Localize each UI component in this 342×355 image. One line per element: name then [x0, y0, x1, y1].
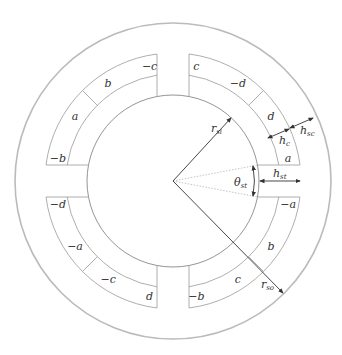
h-c-label: hc [279, 134, 290, 148]
coil-label: −d [50, 198, 66, 211]
coil-label: −a [67, 240, 83, 253]
coil-label: a [285, 152, 292, 165]
coil-label: −b [188, 290, 204, 303]
slot-outer-arc [189, 54, 300, 165]
coil-divider [82, 90, 97, 105]
coil-label: b [105, 77, 112, 90]
slot-outer-arc [46, 197, 157, 308]
coil-label: −b [50, 152, 66, 165]
theta-st-arc [253, 166, 254, 196]
h-sc-label: hsc [300, 124, 315, 138]
coil-divider [249, 90, 264, 105]
coil-label: −a [280, 198, 296, 211]
coil-label: −d [230, 77, 246, 90]
r-so-label: rso [261, 278, 274, 292]
slot-outer-arc [46, 54, 157, 165]
coil-divider [82, 257, 97, 272]
r-so-arrow [173, 181, 283, 293]
coil-label: b [267, 240, 274, 253]
coil-label: d [146, 290, 153, 303]
coil-label: c [235, 273, 241, 286]
theta-st-label: θst [234, 176, 247, 190]
coil-label: c [193, 60, 199, 73]
coil-divider [249, 257, 264, 272]
coil-label: a [72, 110, 79, 123]
coil-label: d [267, 110, 274, 123]
stator-diagram: b−cc−dda−abc−bd−c−a−d−ba rsi rso θst hst… [0, 0, 342, 355]
coil-label: −c [142, 60, 157, 73]
coil-label: −c [100, 273, 115, 286]
r-si-arrow [173, 118, 231, 181]
h-st-label: hst [273, 167, 287, 181]
r-si-label: rsi [211, 122, 222, 136]
